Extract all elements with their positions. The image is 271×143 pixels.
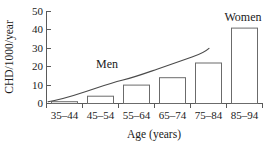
y-axis-ticks <box>47 12 51 104</box>
chd-by-age-chart: 0 10 20 30 40 50 CHD/1000/year <box>0 0 271 143</box>
x-axis-ticks <box>47 104 263 109</box>
bar-45-54 <box>88 96 114 103</box>
y-tick-label-40: 40 <box>32 23 44 35</box>
y-tick-label-10: 10 <box>32 79 44 91</box>
women-series-label: Women <box>224 10 261 24</box>
x-tick-label-65-74: 65–74 <box>159 109 187 121</box>
y-tick-label-30: 30 <box>32 42 44 54</box>
y-tick-label-20: 20 <box>32 60 44 72</box>
bar-55-64 <box>124 85 150 103</box>
bar-65-74 <box>160 78 186 104</box>
y-tick-label-50: 50 <box>32 5 44 17</box>
bar-85-94 <box>232 28 258 103</box>
men-series-label: Men <box>96 57 118 71</box>
chart-canvas: 0 10 20 30 40 50 CHD/1000/year <box>0 0 271 143</box>
bar-75-84 <box>196 63 222 104</box>
x-tick-label-55-64: 55–64 <box>123 109 151 121</box>
x-tick-label-45-54: 45–54 <box>87 109 115 121</box>
bar-35-44 <box>52 102 78 104</box>
x-axis-title: Age (years) <box>127 128 181 141</box>
y-tick-label-0: 0 <box>38 97 44 109</box>
y-axis-title: CHD/1000/year <box>3 20 16 94</box>
x-tick-label-35-44: 35–44 <box>51 109 79 121</box>
x-tick-label-75-84: 75–84 <box>195 109 223 121</box>
x-tick-label-85-94: 85–94 <box>231 109 259 121</box>
